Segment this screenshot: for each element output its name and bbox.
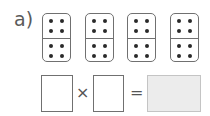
times-sign: × — [76, 84, 89, 102]
pip-icon — [49, 54, 53, 58]
equals-sign: = — [130, 84, 143, 102]
pip-icon — [60, 44, 64, 48]
result-input-box[interactable] — [147, 75, 201, 112]
domino-4 — [170, 13, 199, 62]
pip-icon — [188, 19, 192, 23]
factor1-input-box[interactable] — [41, 75, 73, 112]
pip-icon — [49, 44, 53, 48]
pip-icon — [103, 44, 107, 48]
pip-icon — [103, 29, 107, 33]
pip-icon — [92, 19, 96, 23]
domino-1 — [42, 13, 71, 62]
pip-icon — [177, 29, 181, 33]
pip-icon — [145, 44, 149, 48]
domino-divider — [171, 38, 198, 39]
pip-icon — [134, 54, 138, 58]
exercise-label: a) — [14, 9, 33, 29]
domino-divider — [128, 38, 155, 39]
pip-icon — [177, 54, 181, 58]
pip-icon — [188, 54, 192, 58]
domino-divider — [43, 38, 70, 39]
pip-icon — [145, 29, 149, 33]
pip-icon — [134, 19, 138, 23]
pip-icon — [92, 44, 96, 48]
pip-icon — [145, 54, 149, 58]
pip-icon — [60, 29, 64, 33]
pip-icon — [92, 54, 96, 58]
pip-icon — [60, 19, 64, 23]
pip-icon — [134, 29, 138, 33]
domino-divider — [86, 38, 113, 39]
pip-icon — [49, 29, 53, 33]
domino-2 — [85, 13, 114, 62]
domino-3 — [127, 13, 156, 62]
pip-icon — [103, 54, 107, 58]
pip-icon — [103, 19, 107, 23]
pip-icon — [92, 29, 96, 33]
factor2-input-box[interactable] — [93, 75, 124, 112]
pip-icon — [134, 44, 138, 48]
pip-icon — [49, 19, 53, 23]
pip-icon — [177, 44, 181, 48]
pip-icon — [177, 19, 181, 23]
pip-icon — [60, 54, 64, 58]
pip-icon — [145, 19, 149, 23]
pip-icon — [188, 29, 192, 33]
pip-icon — [188, 44, 192, 48]
